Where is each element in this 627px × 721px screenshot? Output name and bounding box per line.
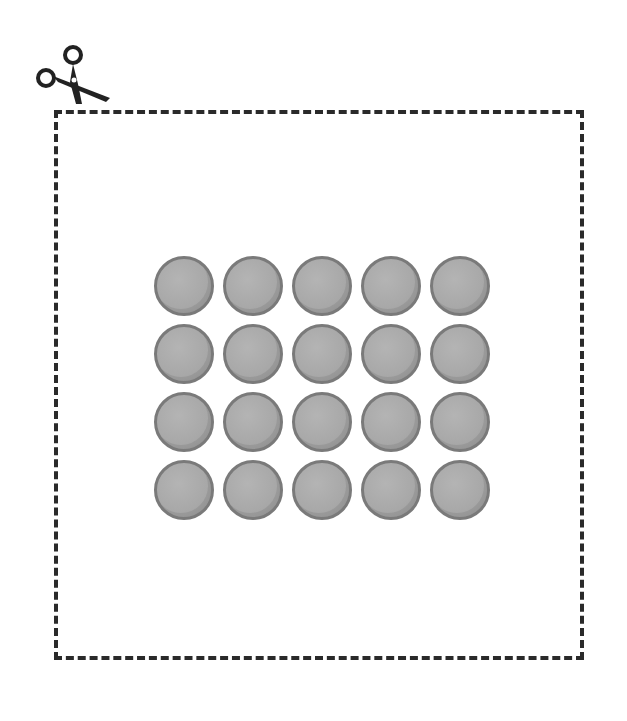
counter-token (430, 324, 490, 384)
counter-token (430, 256, 490, 316)
counter-token (154, 256, 214, 316)
counter-token (292, 460, 352, 520)
counter-token (361, 256, 421, 316)
scissors-icon (36, 42, 116, 108)
token-grid (154, 256, 492, 528)
counter-token (223, 460, 283, 520)
counter-token (361, 324, 421, 384)
counter-token (223, 324, 283, 384)
counter-token (292, 324, 352, 384)
counter-token (154, 460, 214, 520)
counter-token (430, 392, 490, 452)
counter-token (361, 392, 421, 452)
counter-token (361, 460, 421, 520)
counter-token (223, 256, 283, 316)
counter-token (292, 392, 352, 452)
counter-token (292, 256, 352, 316)
counter-token (223, 392, 283, 452)
counter-token (154, 392, 214, 452)
counter-token (430, 460, 490, 520)
counter-token (154, 324, 214, 384)
